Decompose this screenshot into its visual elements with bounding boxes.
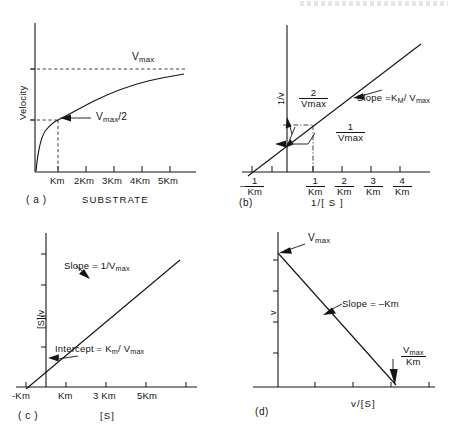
panel-a-tag: ( a ) <box>26 195 47 206</box>
panel-b-x-axis-label: 1/[ S ] <box>311 198 344 208</box>
panel-c-slope-label: Slope = 1/Vmax <box>64 261 130 272</box>
panel-d-x-ticks <box>315 382 429 387</box>
panel-c-xtick-neg-km: -Km <box>12 391 30 401</box>
panel-a-xtick-3: 3Km <box>102 176 122 186</box>
panel-c-intercept-arrowhead <box>48 354 59 361</box>
panel-d-slope-arrowhead <box>323 308 336 316</box>
panel-a-michaelis-menten: Velocity Vmax Vmax/2 Km 2Km 3Km 4Km 5Km … <box>0 0 225 219</box>
panel-a-xtick-5: 5Km <box>158 176 178 186</box>
panel-a-xtick-2: 2Km <box>74 176 94 186</box>
panel-a-x-axis-label: SUBSTRATE <box>82 195 149 205</box>
panel-b-tag: (b) <box>239 198 253 209</box>
panel-a-xtick-4: 4Km <box>130 176 150 186</box>
panel-a-vmax-label: Vmax <box>132 52 154 64</box>
panel-d-eadie-line <box>278 253 396 385</box>
panel-c-hanes-woolf: [S]/v Slope = 1/Vmax Intercept = Km/ Vma… <box>0 219 225 438</box>
panel-b-lineweaver-burk: 1/v 2 Vmax 1 Vmax Slope =KM/ Vmax – 1 Km <box>225 0 450 219</box>
panel-d-vmax-arrowhead <box>279 247 292 254</box>
panel-b-y-axis-label: 1/v <box>277 92 286 105</box>
panel-b-xtick-neg-1-km: – 1 Km <box>240 176 264 196</box>
panel-d-xintercept-numerator: Vmax <box>401 345 426 356</box>
panel-b-xtick-3-km: 3 Km <box>364 176 383 196</box>
panel-c-intercept-label: Intercept = Km/ Vmax <box>55 344 144 355</box>
panel-a-x-ticks <box>58 166 170 172</box>
panel-b-lineweaver-line <box>248 44 421 176</box>
panel-a-y-axis-label: Velocity <box>18 86 28 120</box>
panel-b-one-over-vmax-label: 1 Vmax <box>336 122 365 142</box>
panel-d-tag: (d) <box>255 407 269 418</box>
panel-b-one-over-vmax-numerator: 1 <box>336 122 365 132</box>
panel-b-x-ticks <box>252 166 400 172</box>
panel-c-y-axis-label: [S]/v <box>37 310 47 329</box>
panel-a-xtick-1: Km <box>50 176 65 186</box>
panel-d-slope-label: Slope = –Km <box>342 299 399 309</box>
panel-c-x-axis-label: [S] <box>100 411 115 421</box>
panel-b-xtick-4-km: 4 Km <box>393 176 412 196</box>
panel-b-xtick-1-km: 1 Km <box>306 176 325 196</box>
panel-b-one-over-vmax-denominator: Vmax <box>336 132 365 143</box>
panel-b-xint-leader-d <box>308 133 315 144</box>
panel-d-x-axis-label: v/[S] <box>351 399 376 409</box>
panel-d-vmax-label: Vmax <box>308 233 330 245</box>
panel-d-eadie-hofstee: v Vmax Slope = –Km Vmax Km v/[S] (d) <box>225 219 450 438</box>
figure-root: Velocity Vmax Vmax/2 Km 2Km 3Km 4Km 5Km … <box>0 0 450 438</box>
panel-d-xintercept-label: Vmax Km <box>401 345 426 367</box>
panel-c-x-ticks <box>26 382 186 387</box>
panel-c-tag: ( c ) <box>18 411 38 422</box>
panel-b-xtick-2-km: 2 Km <box>335 176 354 196</box>
panel-b-two-over-vmax-numerator: 2 <box>299 88 328 98</box>
panel-d-y-ticks <box>273 260 278 353</box>
panel-c-intercept-leader <box>58 356 78 359</box>
panel-b-xint-arrowhead <box>275 140 286 147</box>
panel-a-y-ticks <box>30 69 35 120</box>
panel-a-plot <box>0 0 225 219</box>
panel-d-y-axis-label: v <box>269 310 279 315</box>
panel-c-xtick-km: Km <box>58 391 73 401</box>
panel-c-xtick-3km: 3 Km <box>93 391 116 401</box>
panel-b-slope-label: Slope =KM/ Vmax <box>357 93 430 104</box>
panel-d-xintercept-denominator: Km <box>401 356 426 367</box>
panel-c-hanes-line <box>26 260 180 389</box>
panel-b-two-over-vmax-denominator: Vmax <box>299 98 328 109</box>
panel-c-y-ticks <box>41 254 46 347</box>
panel-b-two-over-vmax-label: 2 Vmax <box>299 88 328 108</box>
panel-c-plot <box>0 219 225 438</box>
panel-a-half-vmax-label: Vmax/2 <box>96 112 127 124</box>
panel-c-xtick-5km: 5Km <box>137 391 157 401</box>
